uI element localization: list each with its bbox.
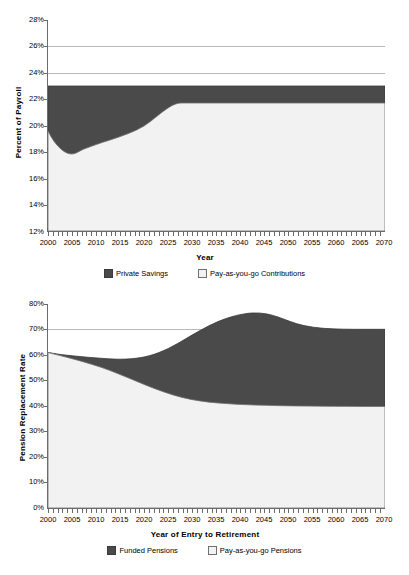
- chart1-ytick-16: 16%: [8, 175, 44, 183]
- chart1-area-svg: [48, 20, 385, 231]
- chart2-plot-area: [48, 304, 385, 508]
- chart2-x-minor-ticks: [48, 509, 385, 513]
- chart1-x-axis-title: Year: [10, 253, 400, 262]
- chart1-ytick-24: 24%: [8, 69, 44, 77]
- chart2-legend-label-0: Funded Pensions: [119, 546, 177, 555]
- chart1-legend-item-payg: Pay-as-you-go Contributions: [198, 269, 305, 278]
- chart2-area-svg: [48, 304, 385, 508]
- legend-swatch-light-icon: [208, 546, 217, 555]
- payroll-cost-chart: Percent of Payroll 28% 26% 24% 22% 20% 1…: [0, 0, 409, 290]
- chart2-ytick-50: 50%: [8, 376, 44, 384]
- legend-swatch-light-icon: [198, 269, 207, 278]
- chart2-ytick-80: 80%: [8, 300, 44, 308]
- chart1-ytick-22: 22%: [8, 95, 44, 103]
- chart1-ytick-14: 14%: [8, 201, 44, 209]
- chart2-ytick-40: 40%: [8, 402, 44, 410]
- legend-swatch-dark-icon: [104, 269, 113, 278]
- chart1-ytick-12: 12%: [8, 228, 44, 236]
- chart2-legend-item-payg: Pay-as-you-go Pensions: [208, 546, 302, 555]
- chart2-ytick-10: 10%: [8, 478, 44, 486]
- chart1-legend-label-0: Private Savings: [116, 269, 168, 278]
- chart2-ytick-70: 70%: [8, 325, 44, 333]
- chart1-ytick-20: 20%: [8, 122, 44, 130]
- chart2-ytick-0: 0%: [8, 504, 44, 512]
- chart1-legend: Private Savings Pay-as-you-go Contributi…: [0, 269, 409, 278]
- chart2-xtick-2070: 2070: [366, 516, 402, 524]
- chart1-ytick-28: 28%: [8, 16, 44, 24]
- chart2-ytick-20: 20%: [8, 453, 44, 461]
- chart1-y-axis-line: [47, 20, 48, 232]
- chart1-xtick-2070: 2070: [366, 239, 402, 247]
- chart2-ytick-60: 60%: [8, 351, 44, 359]
- chart1-ytick-26: 26%: [8, 42, 44, 50]
- chart1-plot-area: [48, 20, 385, 231]
- chart2-legend-label-1: Pay-as-you-go Pensions: [220, 546, 302, 555]
- chart2-legend: Funded Pensions Pay-as-you-go Pensions: [0, 546, 409, 555]
- chart1-legend-item-private-savings: Private Savings: [104, 269, 168, 278]
- chart2-y-axis-line: [47, 304, 48, 509]
- legend-swatch-dark-icon: [107, 546, 116, 555]
- chart2-x-axis-title: Year of Entry to Retirement: [10, 530, 400, 539]
- chart1-legend-label-1: Pay-as-you-go Contributions: [210, 269, 305, 278]
- replacement-rate-chart: Pension Replacement Rate 80% 70% 60% 50%…: [0, 290, 409, 575]
- chart2-legend-item-funded-pensions: Funded Pensions: [107, 546, 177, 555]
- chart2-ytick-30: 30%: [8, 427, 44, 435]
- chart1-x-minor-ticks: [48, 232, 385, 236]
- chart1-ytick-18: 18%: [8, 148, 44, 156]
